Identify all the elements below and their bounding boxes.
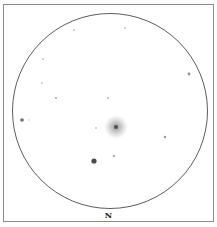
galaxy [103, 114, 129, 140]
star [113, 155, 115, 157]
star [55, 97, 57, 99]
star [42, 58, 44, 60]
star-field [20, 27, 190, 163]
star [164, 136, 166, 138]
star [95, 127, 97, 129]
star [188, 73, 191, 76]
star [124, 27, 126, 29]
star [91, 158, 96, 163]
eyepiece-sketch [0, 0, 217, 227]
star [41, 82, 43, 84]
star [20, 118, 24, 122]
north-orientation-label: N [0, 210, 217, 220]
star [73, 29, 75, 31]
field-of-view-circle [13, 14, 208, 209]
star [107, 97, 109, 99]
galaxy-core [113, 124, 119, 130]
star [28, 119, 30, 121]
